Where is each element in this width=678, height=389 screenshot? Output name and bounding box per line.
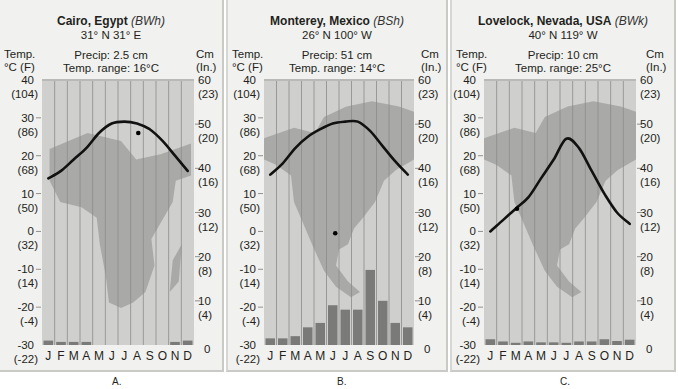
precip-cm-tick-label: 0	[646, 343, 652, 355]
precip-cm-tick-label: 20	[198, 251, 211, 263]
precip-cm-tick-label: 30	[198, 207, 211, 219]
precip-bar	[183, 341, 193, 345]
month-label: F	[57, 349, 64, 363]
month-label: N	[391, 349, 400, 363]
precip-cm-tick-label: 50	[198, 118, 211, 130]
temp-c-tick-label: -20	[239, 301, 256, 313]
temp-f-tick-label: (14)	[460, 277, 481, 289]
precip-bar	[536, 342, 546, 345]
precip-in-tick-label: (8)	[640, 265, 654, 277]
precip-cm-tick-label: 30	[418, 207, 431, 219]
month-label: N	[171, 349, 180, 363]
precip-in-tick-label: (23)	[640, 88, 661, 100]
month-label: J	[267, 349, 273, 363]
precip-cm-tick-label: 0	[424, 343, 430, 355]
temp-c-tick-label: -10	[17, 263, 34, 275]
temp-c-tick-label: 40	[21, 74, 34, 86]
temp-c-tick-label: -10	[459, 263, 476, 275]
precip-cm-tick-label: 60	[198, 74, 211, 86]
month-label: J	[109, 349, 115, 363]
climograph-2: 40(104)30(86)20(68)10(50)0(32)-10(14)-20…	[453, 74, 660, 365]
precip-cm-tick-label: 50	[418, 118, 431, 130]
temp-c-tick-label: -10	[239, 263, 256, 275]
temp-f-tick-label: (-22)	[456, 353, 480, 365]
precip-in-tick-label: (4)	[198, 309, 212, 321]
precip-bar	[341, 310, 351, 345]
precip-bar	[524, 341, 534, 345]
precip-in-tick-label: (20)	[198, 132, 219, 144]
month-label: J	[121, 349, 127, 363]
precip-in-tick-label: (4)	[640, 309, 654, 321]
precip-cm-tick-label: 60	[640, 74, 653, 86]
precip-cm-tick-label: 30	[640, 207, 653, 219]
month-label: M	[511, 349, 521, 363]
month-label: F	[279, 349, 286, 363]
month-label: S	[146, 349, 154, 363]
precip-in-tick-label: (12)	[418, 221, 439, 233]
precip-bar	[486, 339, 496, 345]
precip-bar	[600, 339, 610, 345]
month-label: J	[551, 349, 557, 363]
month-label: A	[82, 349, 90, 363]
month-label: D	[403, 349, 412, 363]
month-label: M	[536, 349, 546, 363]
temp-f-tick-label: (104)	[233, 88, 260, 100]
temp-f-tick-label: (14)	[240, 277, 261, 289]
month-label: A	[524, 349, 532, 363]
temp-f-tick-label: (-4)	[462, 315, 480, 327]
precip-in-tick-label: (23)	[418, 88, 439, 100]
precip-cm-tick-label: 10	[640, 295, 653, 307]
month-label: J	[330, 349, 336, 363]
temp-c-tick-label: 30	[463, 112, 476, 124]
temp-f-tick-label: (50)	[460, 202, 481, 214]
temp-c-tick-label: 40	[243, 74, 256, 86]
temp-f-tick-label: (-4)	[242, 315, 260, 327]
precip-bar	[82, 342, 92, 345]
month-label: A	[304, 349, 312, 363]
month-label: A	[133, 349, 141, 363]
precip-bar	[303, 327, 313, 345]
month-label: J	[342, 349, 348, 363]
month-label: O	[600, 349, 609, 363]
precip-bar	[511, 343, 521, 345]
temp-c-tick-label: -20	[17, 301, 34, 313]
precip-bar	[378, 301, 388, 345]
precip-in-tick-label: (16)	[640, 176, 661, 188]
precip-bar	[266, 338, 276, 345]
precip-bar	[353, 310, 363, 345]
precip-bar	[291, 336, 301, 345]
temp-c-tick-label: 20	[243, 150, 256, 162]
month-label: J	[45, 349, 51, 363]
temp-c-tick-label: 20	[21, 150, 34, 162]
precip-bar	[278, 338, 288, 345]
month-label: M	[290, 349, 300, 363]
precip-bar	[328, 305, 338, 345]
precip-cm-tick-label: 0	[204, 343, 210, 355]
precip-bar	[498, 341, 508, 345]
precip-cm-tick-label: 60	[418, 74, 431, 86]
temp-c-tick-label: 40	[463, 74, 476, 86]
precip-cm-tick-label: 10	[198, 295, 211, 307]
precip-bar	[587, 341, 597, 345]
precip-in-tick-label: (16)	[418, 176, 439, 188]
temp-c-tick-label: -30	[239, 339, 256, 351]
temp-f-tick-label: (50)	[18, 202, 39, 214]
station-location-dot	[333, 231, 338, 236]
month-label: D	[183, 349, 192, 363]
temp-f-tick-label: (68)	[240, 164, 261, 176]
temp-f-tick-label: (32)	[240, 239, 261, 251]
month-label: M	[69, 349, 79, 363]
climograph-1: 40(104)30(86)20(68)10(50)0(32)-10(14)-20…	[233, 74, 438, 365]
precip-cm-tick-label: 40	[198, 162, 211, 174]
precip-cm-tick-label: 40	[418, 162, 431, 174]
precip-in-tick-label: (20)	[418, 132, 439, 144]
precip-cm-tick-label: 50	[640, 118, 653, 130]
month-label: O	[378, 349, 387, 363]
temp-f-tick-label: (104)	[453, 88, 480, 100]
precip-cm-tick-label: 20	[418, 251, 431, 263]
climograph-layer: 40(104)30(86)20(68)10(50)0(32)-10(14)-20…	[0, 0, 678, 389]
precip-in-tick-label: (8)	[418, 265, 432, 277]
temp-f-tick-label: (86)	[460, 126, 481, 138]
temp-c-tick-label: 10	[243, 188, 256, 200]
month-label: N	[613, 349, 622, 363]
